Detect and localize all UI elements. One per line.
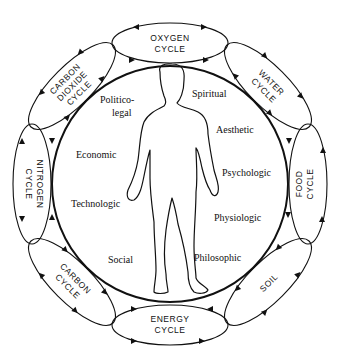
oxygen-cycle-label-2: CYCLE [155,44,186,54]
arrow-icon [320,147,326,153]
carbon-cycle-ellipse: CARBON CYCLE [16,226,128,338]
arrow-icon [133,24,139,30]
arrow-icon [274,244,282,252]
arrow-icon [49,138,55,144]
energy-cycle-label-1: ENERGY [151,314,190,324]
arrow-icon [131,306,137,312]
aspect-philosophic: Philosophic [194,252,242,263]
arrow-icon [49,214,55,220]
food-cycle-label-1: FOOD [294,171,304,198]
arrow-icon [131,338,137,344]
arrow-icon [201,24,207,30]
nitrogen-cycle-ellipse: NITROGEN CYCLE [13,124,55,244]
aspect-psychologic: Psychologic [222,167,271,178]
aspect-economic: Economic [76,149,117,160]
nitrogen-cycle-label-1: NITROGEN [35,160,45,209]
food-cycle-ellipse: FOOD CYCLE [285,124,327,244]
aspect-technologic: Technologic [71,198,121,209]
oxygen-cycle-ellipse: OXYGEN CYCLE [112,23,228,63]
aspect-physiologic: Physiologic [214,212,262,223]
arrow-icon [286,138,292,144]
aspect-aesthetic: Aesthetic [216,124,254,135]
carbon-dioxide-cycle-ellipse: CARBON DIOXIDE CYCLE [16,30,128,142]
arrow-icon [207,306,213,312]
arrow-icon [98,74,106,82]
aspect-social: Social [108,254,133,265]
arrow-icon [294,270,302,278]
aspect-spiritual: Spiritual [192,88,227,99]
arrow-icon [285,212,291,218]
aspect-politico-legal-2: legal [112,107,132,118]
ecology-diagram: OXYGEN CYCLE ENERGY CYCLE NITROGEN CYCLE [0,0,339,356]
nitrogen-cycle-label-2: CYCLE [24,169,34,200]
arrow-icon [199,338,205,344]
cycle-ring: OXYGEN CYCLE ENERGY CYCLE NITROGEN CYCLE [13,23,327,345]
food-cycle-label-2: CYCLE [305,169,315,200]
soil-label: SOIL [258,272,280,294]
aspect-politico-legal-1: Politico- [100,94,134,105]
main-circle [52,66,288,302]
energy-cycle-label-2: CYCLE [155,325,186,335]
arrow-icon [19,216,25,222]
oxygen-cycle-label-1: OXYGEN [150,33,189,43]
aspects-left: Politico- legal Economic Technologic Soc… [71,94,134,265]
energy-cycle-ellipse: ENERGY CYCLE [112,305,228,345]
